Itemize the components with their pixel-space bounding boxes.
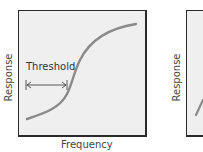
second-curve <box>196 100 203 115</box>
y-axis-label-1: Response <box>3 53 14 101</box>
y-axis-label-2: Response <box>171 53 182 101</box>
threshold-label: Threshold <box>26 61 75 72</box>
x-axis-label-1: Frequency <box>61 139 113 150</box>
threshold-arrow <box>26 80 67 90</box>
